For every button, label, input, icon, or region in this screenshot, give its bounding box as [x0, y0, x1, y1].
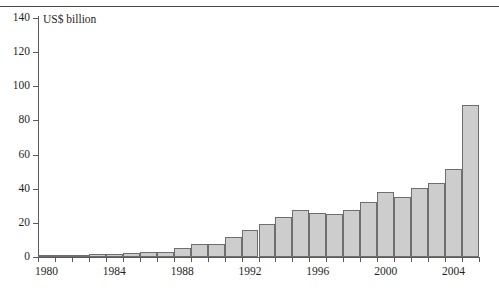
x-axis-tick: [479, 257, 480, 262]
bar-1990: [208, 244, 225, 257]
x-axis-tick: [242, 257, 243, 262]
bar-1989: [191, 244, 208, 257]
x-axis-tick: [445, 257, 446, 262]
x-axis-tick: [377, 257, 378, 262]
bar-chart-figure: US$ billion 020406080100120140 198019841…: [0, 0, 499, 294]
bar-2003: [428, 183, 445, 257]
bar-1997: [326, 214, 343, 257]
x-axis-tick: [428, 257, 429, 262]
plot-area: [38, 18, 479, 257]
x-axis-tick-label-1980: 1980: [35, 265, 58, 277]
y-axis-tick-label: 20: [19, 217, 31, 228]
bar-2002: [411, 188, 428, 257]
x-axis-tick: [123, 257, 124, 262]
bar-2001: [394, 197, 411, 257]
x-axis-tick: [309, 257, 310, 262]
bar-2000: [377, 192, 394, 257]
x-axis-tick-label-1992: 1992: [239, 265, 262, 277]
x-axis-tick: [275, 257, 276, 262]
x-axis-tick-label-2000: 2000: [374, 265, 397, 277]
x-axis-tick: [394, 257, 395, 262]
y-axis-tick-label: 100: [13, 80, 30, 91]
x-axis-tick: [360, 257, 361, 262]
y-axis-tick-label: 60: [19, 149, 31, 160]
bar-1983: [89, 254, 106, 257]
y-axis-tick-label: 80: [19, 114, 31, 125]
bar-1999: [360, 202, 377, 257]
bar-1998: [343, 210, 360, 257]
bar-1993: [259, 224, 276, 257]
bar-1992: [242, 230, 259, 257]
x-axis-tick-label-1988: 1988: [171, 265, 194, 277]
x-axis-tick: [326, 257, 327, 262]
bar-2004: [445, 169, 462, 257]
x-axis-tick-label-1996: 1996: [306, 265, 329, 277]
x-axis-tick: [38, 257, 39, 262]
bar-1981: [55, 255, 72, 257]
bar-1985: [123, 253, 140, 257]
x-axis-tick: [55, 257, 56, 262]
x-axis-tick-label-2004: 2004: [442, 265, 465, 277]
x-axis-tick: [292, 257, 293, 262]
y-axis-labels: 020406080100120140: [0, 0, 33, 294]
bar-1991: [225, 237, 242, 257]
x-axis-tick: [106, 257, 107, 262]
y-axis-tick-label: 120: [13, 46, 30, 57]
x-axis-tick: [225, 257, 226, 262]
x-axis-tick: [72, 257, 73, 262]
y-axis-tick-label: 140: [13, 12, 30, 23]
bar-1982: [72, 255, 89, 257]
x-axis-tick: [462, 257, 463, 262]
y-axis-tick-label: 0: [24, 251, 30, 262]
y-axis-tick-label: 40: [19, 183, 31, 194]
x-axis-tick: [411, 257, 412, 262]
x-axis-tick: [191, 257, 192, 262]
top-divider-rule: [0, 6, 499, 7]
bar-1994: [275, 217, 292, 257]
bar-1996: [309, 213, 326, 257]
x-axis-tick-label-1984: 1984: [103, 265, 126, 277]
x-axis-tick: [343, 257, 344, 262]
x-axis-tick: [89, 257, 90, 262]
bar-1980: [38, 255, 55, 257]
bar-1988: [174, 248, 191, 257]
x-axis-tick: [174, 257, 175, 262]
bar-2005: [462, 105, 479, 257]
x-axis-tick: [157, 257, 158, 262]
bar-1986: [140, 252, 157, 257]
x-axis-tick: [140, 257, 141, 262]
x-axis-tick: [259, 257, 260, 262]
bar-1987: [157, 252, 174, 257]
x-axis-tick: [208, 257, 209, 262]
bar-1995: [292, 210, 309, 257]
bar-1984: [106, 254, 123, 257]
